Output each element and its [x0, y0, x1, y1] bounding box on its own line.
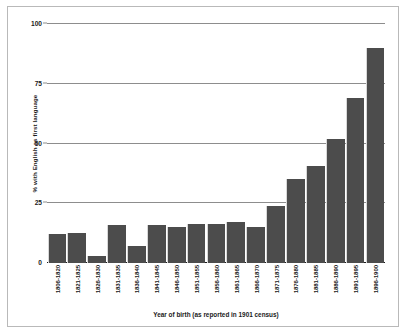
x-tick-slot: 1891-1895	[345, 265, 365, 309]
x-tick-label: 1881-1885	[312, 265, 319, 293]
bar	[346, 98, 365, 263]
x-tick-label: 1861-1865	[232, 265, 239, 293]
x-tick-label: 1876-1880	[292, 265, 299, 293]
x-tick-slot: 1851-1855	[186, 265, 206, 309]
y-tick-label: 100	[31, 20, 42, 27]
x-tick-label: 1841-1845	[153, 265, 160, 293]
x-tick-slot: 1876-1880	[286, 265, 306, 309]
bar-slot	[146, 24, 166, 263]
bar	[306, 166, 325, 263]
x-tick-label: 1886-1890	[332, 265, 339, 293]
x-tick-label: 1851-1855	[193, 265, 200, 293]
x-tick-slot: 1846-1850	[166, 265, 186, 309]
x-tick-label: 1831-1835	[113, 265, 120, 293]
bar-slot	[246, 24, 266, 263]
bar	[326, 139, 345, 263]
x-tick-slot: 1866-1870	[246, 265, 266, 309]
x-tick-label: 1846-1850	[173, 265, 180, 293]
bar-slot	[166, 24, 186, 263]
x-tick-slot: 1826-1830	[87, 265, 107, 309]
bar	[226, 222, 245, 263]
y-tick-label: 0	[38, 258, 42, 265]
bar-slot	[305, 24, 325, 263]
x-tick-slot: 1841-1845	[146, 265, 166, 309]
bar	[366, 48, 385, 263]
bar-slot	[107, 24, 127, 263]
bar-slot	[186, 24, 206, 263]
bar	[246, 227, 265, 263]
x-axis-tick-labels: 1806-18201821-18251826-18301831-18351836…	[47, 265, 385, 309]
x-tick-label: 1836-1840	[133, 265, 140, 293]
x-tick-slot: 1856-1860	[206, 265, 226, 309]
x-tick-label: 1821-1825	[73, 265, 80, 293]
x-tick-label: 1866-1870	[252, 265, 259, 293]
x-tick-slot: 1896-1900	[365, 265, 385, 309]
bar	[207, 224, 226, 263]
bar-slot	[286, 24, 306, 263]
bar-slot	[345, 24, 365, 263]
bar-slot	[67, 24, 87, 263]
bar	[87, 256, 106, 263]
x-tick-label: 1891-1895	[352, 265, 359, 293]
bar	[107, 225, 126, 263]
x-tick-slot: 1821-1825	[67, 265, 87, 309]
bar-slot	[365, 24, 385, 263]
bar-slot	[87, 24, 107, 263]
bar-slot	[226, 24, 246, 263]
x-tick-slot: 1886-1890	[325, 265, 345, 309]
x-tick-slot: 1806-1820	[47, 265, 67, 309]
x-tick-label: 1871-1875	[272, 265, 279, 293]
bar	[127, 246, 146, 263]
y-tick-label: 75	[35, 79, 42, 86]
x-tick-slot: 1871-1875	[266, 265, 286, 309]
bar	[266, 206, 285, 263]
x-tick-slot: 1881-1885	[305, 265, 325, 309]
x-tick-label: 1826-1830	[93, 265, 100, 293]
plot-area: 0255075100	[47, 24, 385, 263]
bar-slot	[47, 24, 67, 263]
x-tick-label: 1856-1860	[212, 265, 219, 293]
bar-slot	[127, 24, 147, 263]
x-tick-slot: 1861-1865	[226, 265, 246, 309]
bar-slot	[325, 24, 345, 263]
y-tick-label: 50	[35, 139, 42, 146]
bar-slot	[206, 24, 226, 263]
bar	[187, 224, 206, 263]
bar	[286, 179, 305, 263]
bar	[147, 225, 166, 263]
bar-slot	[266, 24, 286, 263]
chart-figure: % with English as first language 0255075…	[0, 0, 407, 334]
bar	[167, 227, 186, 263]
y-tick-label: 25	[35, 199, 42, 206]
x-axis-title: Year of birth (as reported in 1901 censu…	[47, 311, 385, 318]
bar	[67, 233, 86, 263]
x-tick-label: 1806-1820	[53, 265, 60, 293]
bar	[48, 234, 67, 263]
x-tick-label: 1896-1900	[371, 265, 378, 293]
x-tick-slot: 1836-1840	[127, 265, 147, 309]
x-tick-slot: 1831-1835	[107, 265, 127, 309]
bar-series	[47, 24, 385, 263]
